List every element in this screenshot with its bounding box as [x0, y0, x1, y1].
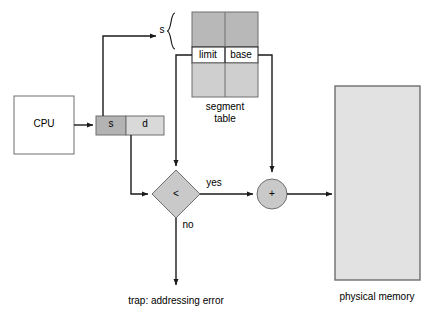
physical-memory-box [335, 86, 420, 280]
limit-to-comparator-line [176, 55, 192, 166]
segmentation-hardware-diagram: CPU s d s limit base segment table < yes… [0, 0, 439, 325]
segment-table-base-label: base [230, 49, 252, 61]
segment-number-to-table-line [103, 36, 156, 116]
trap-label: trap: addressing error [128, 295, 224, 307]
physical-memory-caption: physical memory [339, 291, 414, 303]
comparator-operator-label: < [173, 188, 179, 200]
segment-table-limit-label: limit [199, 49, 217, 61]
comparator-no-label: no [182, 219, 193, 231]
segment-table-caption-line1: segment [206, 101, 244, 113]
offset-field-label: d [142, 118, 148, 130]
diagram-vector-layer [0, 0, 439, 325]
adder-operator-label: + [269, 188, 275, 200]
segment-table-index-label: s [160, 24, 165, 36]
segment-table-caption-line2: table [214, 113, 236, 125]
segment-number-field-label: s [109, 118, 114, 130]
base-to-adder-line [258, 55, 272, 172]
comparator-yes-label: yes [206, 177, 222, 189]
segment-index-brace [167, 13, 175, 49]
offset-to-comparator-line [131, 135, 148, 194]
cpu-label: CPU [33, 118, 54, 130]
